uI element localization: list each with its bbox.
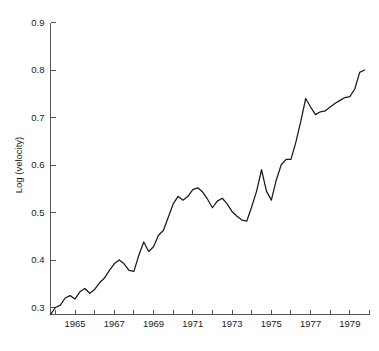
x-tick-label: 1975 <box>261 318 282 329</box>
y-axis-ticks <box>51 23 56 308</box>
y-tick-label: 0.9 <box>31 17 44 28</box>
y-tick-label: 0.7 <box>31 112 44 123</box>
data-series-line <box>51 70 365 315</box>
y-tick-label: 0.5 <box>31 207 44 218</box>
y-tick-label: 0.6 <box>31 159 44 170</box>
x-tick-label: 1973 <box>222 318 243 329</box>
chart-container: 0.30.40.50.60.70.80.9 196519671969197119… <box>0 0 379 351</box>
y-tick-label: 0.3 <box>31 302 44 313</box>
x-tick-label: 1979 <box>339 318 360 329</box>
y-tick-label: 0.8 <box>31 64 44 75</box>
y-axis-title: Log (velocity) <box>13 137 24 194</box>
y-axis-tick-labels: 0.30.40.50.60.70.80.9 <box>31 17 44 313</box>
x-axis-ticks <box>55 310 369 315</box>
x-tick-label: 1967 <box>104 318 125 329</box>
x-tick-label: 1977 <box>300 318 321 329</box>
y-tick-label: 0.4 <box>31 254 44 265</box>
x-axis: 19651967196919711973197519771979 <box>51 310 370 329</box>
x-tick-label: 1965 <box>64 318 85 329</box>
x-tick-label: 1971 <box>182 318 203 329</box>
x-axis-tick-labels: 19651967196919711973197519771979 <box>64 318 360 329</box>
x-tick-label: 1969 <box>143 318 164 329</box>
line-chart: 0.30.40.50.60.70.80.9 196519671969197119… <box>0 0 379 351</box>
y-axis: 0.30.40.50.60.70.80.9 <box>31 17 55 315</box>
